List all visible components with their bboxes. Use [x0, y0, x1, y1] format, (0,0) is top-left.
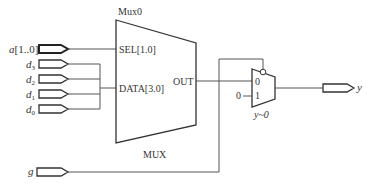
- input-port-d2[interactable]: d2: [26, 73, 68, 87]
- mux-sel-port-label: SEL[1.0]: [119, 44, 156, 55]
- mux-small-port0-label: 0: [255, 76, 260, 87]
- mux-main-instance-name: Mux0: [118, 6, 142, 17]
- mux-small[interactable]: 0 1 0 y~0: [236, 69, 275, 120]
- mux-small-instance-name: y~0: [253, 109, 269, 120]
- mux-small-const-input: 0: [236, 90, 241, 101]
- output-port-y[interactable]: y: [323, 81, 362, 93]
- input-port-d0[interactable]: d0: [26, 103, 68, 117]
- input-pin-icon: [39, 75, 68, 83]
- input-port-a[interactable]: a[1..0]: [9, 43, 68, 55]
- input-label-d0: d0: [26, 103, 36, 117]
- output-label-y: y: [356, 81, 362, 93]
- schematic-canvas: a[1..0] d3 d2 d1 d0 Mux0 SEL[1.0] DATA[3…: [0, 0, 368, 188]
- input-pin-icon: [37, 168, 68, 176]
- mux-type-label: MUX: [143, 149, 167, 160]
- mux-main[interactable]: Mux0 SEL[1.0] DATA[3.0] OUT MUX: [116, 6, 196, 160]
- input-label-g: g: [28, 165, 34, 177]
- mux-out-port-label: OUT: [173, 76, 194, 87]
- input-port-g[interactable]: g: [28, 165, 68, 177]
- input-label-d1: d1: [26, 88, 36, 102]
- inverter-bubble-icon: [260, 69, 266, 75]
- input-pin-icon: [39, 105, 68, 113]
- data-bus-wires: [68, 64, 116, 109]
- mux-data-port-label: DATA[3.0]: [119, 83, 164, 94]
- input-pin-icon: [39, 90, 68, 98]
- input-label-d3: d3: [26, 58, 36, 72]
- input-label-d2: d2: [26, 73, 36, 87]
- input-label-a: a[1..0]: [9, 43, 38, 55]
- input-port-d1[interactable]: d1: [26, 88, 68, 102]
- input-pin-icon: [39, 60, 68, 68]
- output-pin-icon: [323, 84, 354, 92]
- input-port-d3[interactable]: d3: [26, 58, 68, 72]
- mux-small-port1-label: 1: [255, 90, 260, 101]
- bus-input-pin-icon: [39, 45, 68, 53]
